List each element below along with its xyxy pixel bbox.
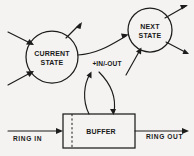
diagram-canvas: CURRENT STATE NEXT STATE <box>0 0 194 156</box>
current-state-label-line2: STATE <box>41 59 64 66</box>
current-in-lower-left-arrow <box>8 71 34 85</box>
current-out-upper-right-arrow <box>66 22 82 38</box>
ring-in-arrow <box>8 128 63 134</box>
next-out-upper-right-arrow <box>165 5 188 18</box>
edge-current-to-next <box>78 34 129 56</box>
node-current-state[interactable]: CURRENT STATE <box>26 31 78 83</box>
edge-state-to-buffer-down <box>99 72 116 115</box>
buffer-label: BUFFER <box>86 128 116 135</box>
next-out-lower-right-arrow <box>166 42 189 54</box>
ring-in-label: RING IN <box>13 135 42 142</box>
next-state-circle <box>128 8 172 52</box>
ring-out-label: RING OUT <box>146 133 183 140</box>
edge-buffer-to-state-up <box>85 72 92 115</box>
in-out-edge-label: +IN/-OUT <box>92 60 121 67</box>
current-state-circle <box>26 31 78 83</box>
next-state-label-line1: NEXT <box>140 23 160 30</box>
next-in-lower-left-arrow <box>126 48 142 76</box>
node-next-state[interactable]: NEXT STATE <box>128 8 172 52</box>
state-transition-diagram: CURRENT STATE NEXT STATE <box>0 0 194 156</box>
next-state-label-line2: STATE <box>139 32 162 39</box>
node-buffer[interactable]: BUFFER <box>63 114 135 148</box>
current-state-label-line1: CURRENT <box>34 50 70 57</box>
